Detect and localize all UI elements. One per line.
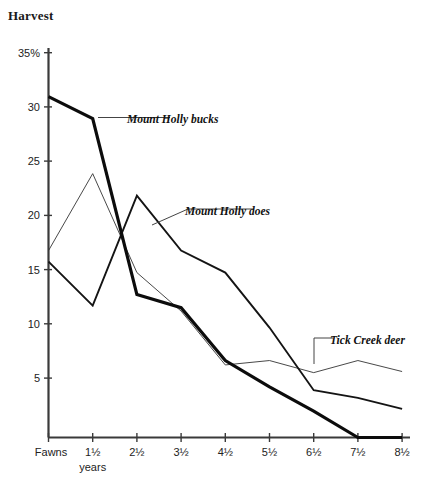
x-label-4h: 4½ [218,446,233,458]
series-line-mount-holly-bucks [49,97,403,438]
x-tick-labels: Fawns 1½ 2½ 3½ 4½ 5½ 6½ 7½ 8½ years [35,446,410,473]
series-label-tick-creek-deer: Tick Creek deer [330,334,405,346]
y-label-35: 35% [18,47,40,59]
annotation-labels: Mount Holly bucks Mount Holly does Tick … [126,113,405,346]
x-label-3h: 3½ [173,446,188,458]
y-label-5: 5 [34,372,40,384]
series-line-mount-holly-does [49,196,403,409]
x-axis-sublabel: years [79,461,106,473]
harvest-line-chart: Harvest 5 10 15 20 25 30 35% [0,0,424,482]
x-label-1h: 1½ [85,446,100,458]
y-label-30: 30 [28,101,40,113]
x-label-fawns: Fawns [35,446,68,458]
y-tick-labels: 5 10 15 20 25 30 35% [18,47,40,384]
annotation-leaders [98,118,333,365]
chart-canvas: 5 10 15 20 25 30 35% Fawns 1½ 2½ 3½ 4½ [0,0,424,482]
x-label-8h: 8½ [394,446,409,458]
x-label-5h: 5½ [262,446,277,458]
y-label-20: 20 [28,209,40,221]
series-label-mount-holly-does: Mount Holly does [184,205,271,218]
y-label-15: 15 [28,264,40,276]
x-label-7h: 7½ [350,446,365,458]
x-label-2h: 2½ [129,446,144,458]
series-label-mount-holly-bucks: Mount Holly bucks [126,113,219,126]
axes [48,48,410,438]
x-label-6h: 6½ [306,446,321,458]
series-group [49,97,403,438]
y-label-25: 25 [28,155,40,167]
y-label-10: 10 [28,318,40,330]
